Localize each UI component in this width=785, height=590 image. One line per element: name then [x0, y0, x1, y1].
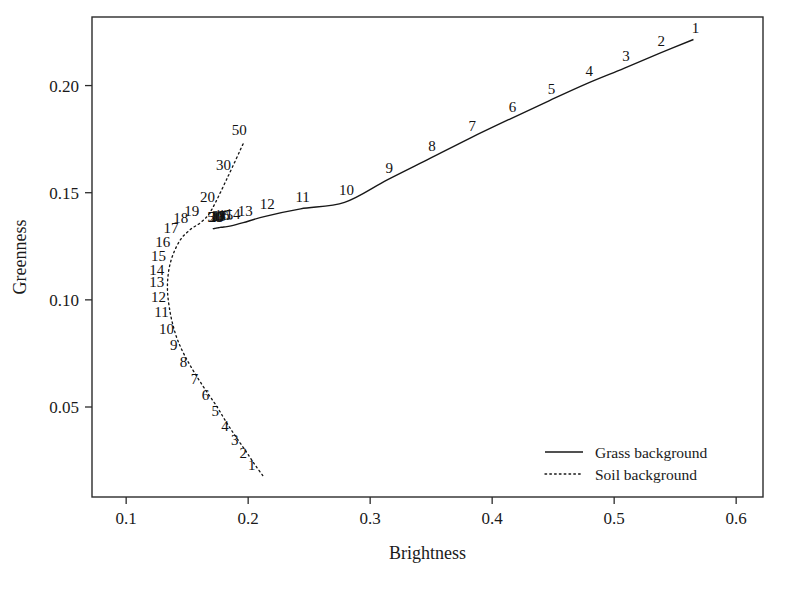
data-point-label: 20 — [200, 189, 215, 205]
x-tick-label: 0.3 — [360, 509, 381, 528]
data-point-label: 19 — [184, 203, 199, 219]
data-point-label: 30 — [216, 157, 231, 173]
data-point-label: 11 — [154, 304, 168, 320]
data-point-label: 8 — [428, 138, 436, 154]
data-point-label: 50 — [207, 209, 222, 225]
data-point-label: 10 — [339, 182, 354, 198]
data-point-label: 4 — [586, 63, 594, 79]
x-tick-label: 0.6 — [726, 509, 747, 528]
x-tick-label: 0.2 — [238, 509, 259, 528]
y-tick-label: 0.15 — [49, 184, 79, 203]
x-tick-label: 0.5 — [604, 509, 625, 528]
brightness-greenness-plot: 0.10.20.30.40.50.60.050.100.150.20Bright… — [0, 0, 785, 590]
y-axis-title: Greenness — [10, 220, 30, 295]
data-point-label: 1 — [692, 20, 700, 36]
data-point-label: 6 — [509, 99, 517, 115]
data-point-label: 2 — [658, 33, 666, 49]
data-point-label: 12 — [260, 196, 275, 212]
data-point-label: 7 — [191, 371, 199, 387]
y-tick-label: 0.10 — [49, 291, 79, 310]
data-point-label: 2 — [240, 445, 248, 461]
data-point-label: 11 — [295, 189, 309, 205]
data-point-label: 3 — [231, 432, 239, 448]
data-point-label: 16 — [155, 234, 171, 250]
x-axis-title: Brightness — [389, 543, 466, 563]
data-point-label: 14 — [149, 262, 165, 278]
legend-label: Soil background — [595, 466, 697, 483]
data-point-label: 1 — [248, 457, 256, 473]
data-point-label: 9 — [170, 337, 178, 353]
chart-figure: 0.10.20.30.40.50.60.050.100.150.20Bright… — [0, 0, 785, 590]
data-point-label: 5 — [211, 403, 219, 419]
data-point-label: 12 — [151, 289, 166, 305]
data-point-label: 9 — [385, 160, 393, 176]
data-point-label: 50 — [232, 122, 247, 138]
y-tick-label: 0.05 — [49, 398, 79, 417]
series-curve-solid — [213, 40, 694, 229]
data-point-label: 8 — [180, 354, 188, 370]
x-tick-label: 0.1 — [116, 509, 137, 528]
data-point-label: 5 — [548, 81, 556, 97]
legend-label: Grass background — [595, 444, 708, 461]
series-curve-dotted — [167, 143, 262, 475]
plot-frame — [92, 17, 763, 497]
x-tick-label: 0.4 — [482, 509, 504, 528]
y-tick-label: 0.20 — [49, 77, 79, 96]
data-point-label: 3 — [622, 48, 630, 64]
data-point-label: 15 — [151, 248, 166, 264]
data-point-label: 10 — [159, 321, 174, 337]
data-point-label: 6 — [202, 387, 210, 403]
data-point-label: 4 — [221, 418, 229, 434]
data-point-label: 7 — [468, 118, 476, 134]
